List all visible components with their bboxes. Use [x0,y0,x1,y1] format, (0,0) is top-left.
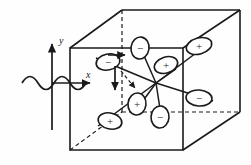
diagram-svg: − − + + − − + [0,0,251,165]
figure-canvas: − − + + − − + [0,0,251,165]
lobe-6: − [150,105,169,128]
lobe-2: − [130,36,151,60]
lobe-3: + [152,54,180,77]
lobe-7-sign: + [134,98,140,110]
lobe-5: − [185,89,212,107]
lobe-2-sign: − [137,42,143,54]
y-axis-label: y [58,35,64,46]
lobe-3-sign: + [163,59,169,71]
lobe-4: + [184,35,213,58]
cube-edge-tl [70,10,122,48]
lobe-1-sign: − [105,56,111,68]
cube-edge-br [183,112,240,150]
lobe-5-sign: − [196,92,202,104]
lobe-4-sign: + [196,40,202,52]
lobe-8-sign: + [107,115,113,127]
lobe-6-sign: − [157,111,163,123]
x-axis-label: x [85,69,91,80]
coordinate-axes [52,44,90,130]
